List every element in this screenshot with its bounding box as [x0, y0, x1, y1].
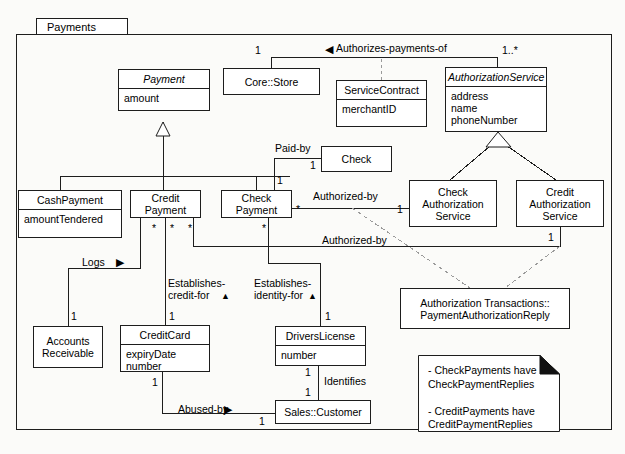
- class-drivers-license[interactable]: DriversLicense number: [275, 326, 366, 366]
- class-authorization-service[interactable]: AuthorizationService address name phoneN…: [445, 67, 547, 132]
- class-credit-card-name: CreditCard: [121, 326, 209, 344]
- mult-check-payment-auth-star: *: [296, 203, 300, 215]
- class-check-authorization-service-name: Check Authorization Service: [422, 186, 483, 222]
- class-payment-attributes: amount: [119, 88, 209, 107]
- class-cash-payment-name: CashPayment: [19, 191, 121, 209]
- class-credit-authorization-service-name: Credit Authorization Service: [529, 186, 590, 222]
- mult-customer-one-abused: 1: [259, 415, 265, 427]
- label-establishes-identity-for: Establishes- identity-for: [254, 277, 311, 301]
- label-authorized-by-credit: Authorized-by: [322, 234, 387, 246]
- mult-check-one: 1: [310, 159, 316, 171]
- class-check[interactable]: Check: [321, 146, 392, 172]
- package-name: Payments: [47, 21, 96, 33]
- class-authorization-service-attributes: address name phoneNumber: [446, 86, 546, 129]
- mult-drivers-license-one-bottom: 1: [305, 366, 311, 378]
- class-check-authorization-service[interactable]: Check Authorization Service: [409, 180, 497, 227]
- label-logs: Logs: [82, 256, 105, 268]
- class-core-store[interactable]: Core::Store: [223, 68, 320, 95]
- class-authorization-transactions-reply-name: Authorization Transactions:: PaymentAuth…: [420, 297, 550, 321]
- note-fold-icon: [540, 356, 560, 375]
- label-authorizes-payments-of: Authorizes-payments-of: [336, 42, 447, 54]
- class-cash-payment-attributes: amountTendered: [19, 209, 121, 228]
- label-logs-arrow: ▶: [116, 256, 124, 268]
- class-payment[interactable]: Payment amount: [118, 69, 210, 111]
- mult-check-payment-star-bottom: *: [262, 222, 266, 234]
- class-credit-card[interactable]: CreditCard expiryDate number: [120, 325, 210, 372]
- class-check-payment-name: Check Payment: [236, 192, 277, 216]
- label-establishes-credit-for: Establishes- credit-for: [168, 277, 225, 301]
- mult-auth-service-many: 1..*: [502, 44, 518, 56]
- note-payment-replies: - CheckPayments have CheckPaymentReplies…: [418, 355, 560, 432]
- note-text: - CheckPayments have CheckPaymentReplies…: [428, 364, 537, 432]
- class-service-contract[interactable]: ServiceContract merchantID: [336, 80, 427, 127]
- label-authorizes-payments-of-arrow: ◀: [325, 43, 333, 55]
- class-check-payment[interactable]: Check Payment: [221, 190, 292, 218]
- mult-drivers-license-one-top: 1: [325, 310, 331, 322]
- class-accounts-receivable[interactable]: Accounts Receivable: [33, 326, 103, 368]
- mult-customer-one-identifies: 1: [305, 386, 311, 398]
- class-credit-authorization-service[interactable]: Credit Authorization Service: [516, 180, 604, 227]
- class-credit-payment-name: Credit Payment: [145, 192, 186, 216]
- mult-credit-payment-star-3: *: [188, 222, 192, 234]
- class-sales-customer[interactable]: Sales::Customer: [275, 400, 371, 424]
- mult-credit-card-one-bottom: 1: [152, 376, 158, 388]
- class-accounts-receivable-name: Accounts Receivable: [42, 335, 94, 359]
- class-drivers-license-attributes: number: [276, 345, 365, 364]
- label-abused-by-arrow: ▶: [224, 403, 232, 415]
- label-identifies: Identifies: [324, 375, 366, 387]
- mult-credit-payment-star-1: *: [152, 222, 156, 234]
- label-establishes-credit-for-arrow: ▲: [221, 290, 230, 302]
- class-service-contract-name: ServiceContract: [337, 81, 426, 99]
- class-authorization-service-name: AuthorizationService: [446, 68, 546, 86]
- mult-accounts-receivable-one: 1: [71, 310, 77, 322]
- mult-store-one: 1: [255, 44, 261, 56]
- label-abused-by: Abused-by: [178, 403, 228, 415]
- class-service-contract-attributes: merchantID: [337, 99, 426, 118]
- class-core-store-name: Core::Store: [245, 76, 299, 88]
- label-paid-by: Paid-by: [275, 142, 311, 154]
- class-authorization-transactions-reply[interactable]: Authorization Transactions:: PaymentAuth…: [400, 288, 570, 329]
- mult-credit-card-one-top: 1: [169, 310, 175, 322]
- mult-credit-auth-one: 1: [548, 231, 554, 243]
- uml-class-diagram: Payments Payment amount Core::Store Serv…: [0, 0, 625, 454]
- mult-check-payment-paidby-one: 1: [277, 174, 283, 186]
- class-credit-card-attributes: expiryDate number: [121, 344, 209, 375]
- class-drivers-license-name: DriversLicense: [276, 327, 365, 345]
- mult-check-auth-one: 1: [397, 203, 403, 215]
- class-sales-customer-name: Sales::Customer: [284, 406, 362, 418]
- class-payment-name: Payment: [119, 70, 209, 88]
- package-tab: Payments: [36, 18, 128, 35]
- class-check-name: Check: [342, 153, 372, 165]
- class-cash-payment[interactable]: CashPayment amountTendered: [18, 190, 122, 238]
- class-credit-payment[interactable]: Credit Payment: [130, 190, 201, 218]
- label-establishes-identity-for-arrow: ▲: [308, 290, 317, 302]
- label-authorized-by-check: Authorized-by: [313, 190, 378, 202]
- mult-credit-payment-star-2: *: [170, 222, 174, 234]
